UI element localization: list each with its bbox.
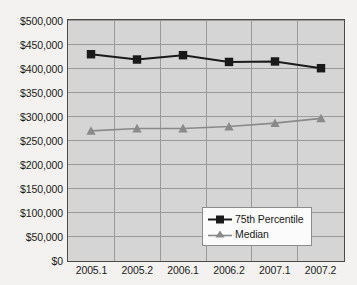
x-axis-tick-label: 2005.1 (76, 264, 108, 276)
y-axis-tick-label: $500,000 (20, 15, 63, 27)
y-axis-tick-label: $350,000 (20, 87, 63, 99)
series-line (91, 54, 321, 68)
x-axis: 2005.12005.22006.12006.22007.12007.2 (67, 264, 345, 284)
x-axis-tick-label: 2006.2 (213, 264, 245, 276)
y-axis-tick-label: $400,000 (20, 63, 63, 75)
y-axis-tick-label: $150,000 (20, 183, 63, 195)
data-point-marker (133, 55, 141, 63)
y-axis: $0$50,000$100,000$150,000$200,000$250,00… (0, 0, 66, 285)
data-point-marker (317, 64, 325, 72)
x-axis-tick-label: 2007.1 (259, 264, 291, 276)
data-point-marker (87, 50, 95, 58)
y-axis-tick-label: $250,000 (20, 135, 63, 147)
x-axis-tick-label: 2007.2 (305, 264, 337, 276)
legend-marker-square-icon (207, 212, 233, 225)
series-line (91, 118, 321, 131)
data-point-marker (271, 57, 279, 65)
data-point-marker (225, 58, 233, 66)
data-point-marker (179, 51, 187, 59)
chart-container: $0$50,000$100,000$150,000$200,000$250,00… (0, 0, 357, 285)
y-axis-tick-label: $50,000 (26, 231, 63, 243)
y-axis-tick-label: $300,000 (20, 111, 63, 123)
y-axis-tick-label: $200,000 (20, 159, 63, 171)
y-axis-tick-label: $0 (52, 255, 63, 267)
y-axis-tick-label: $100,000 (20, 207, 63, 219)
legend-label: 75th Percentile (233, 213, 304, 225)
x-axis-tick-label: 2006.1 (167, 264, 199, 276)
x-axis-tick-label: 2005.2 (121, 264, 153, 276)
legend-label: Median (233, 228, 269, 240)
series-square (87, 50, 325, 72)
legend-item: 75th Percentile (207, 211, 304, 226)
legend-marker-triangle-icon (207, 227, 233, 240)
legend-item: Median (207, 226, 304, 241)
y-axis-tick-label: $450,000 (20, 39, 63, 51)
series-triangle (86, 114, 325, 135)
chart-legend: 75th Percentile Median (202, 207, 312, 246)
